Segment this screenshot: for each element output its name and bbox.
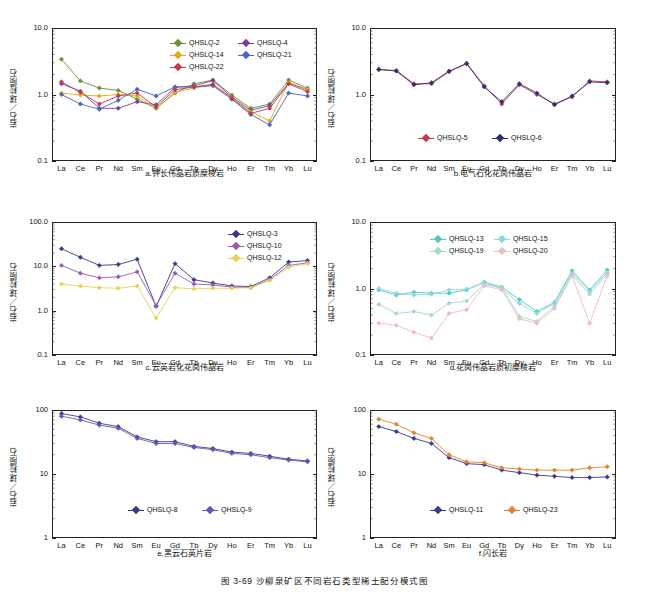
legend-item-a-QHSLQ-22[interactable]: QHSLQ-22 (170, 62, 236, 72)
data-point-a-QHSLQ-21-Tb (192, 85, 196, 89)
y-tickmark-right-e (313, 474, 317, 475)
legend-item-a-QHSLQ-2[interactable]: QHSLQ-2 (170, 38, 236, 48)
y-tick-e: 100 (18, 405, 48, 414)
x-tick-a-Dy: Dy (204, 164, 222, 173)
data-point-c-QHSLQ-3-Lu (305, 258, 309, 262)
legend-label: QHSLQ-9 (221, 505, 252, 515)
x-tick-c-Tm: Tm (261, 358, 279, 367)
data-point-a-QHSLQ-4-Sm (135, 99, 139, 103)
legend-item-d-QHSLQ-20[interactable]: QHSLQ-20 (494, 246, 556, 256)
series-line-c-QHSLQ-12 (61, 264, 307, 318)
legend-item-c-QHSLQ-10[interactable]: QHSLQ-10 (228, 241, 298, 251)
data-point-e-QHSLQ-8-Pr (97, 421, 101, 425)
x-tick-d-La: La (370, 358, 388, 367)
legend-label: QHSLQ-12 (247, 253, 282, 263)
y-tickmark-c (52, 311, 56, 312)
legend-marker-icon (170, 51, 186, 59)
x-tick-b-Ho: Ho (528, 164, 546, 173)
data-point-b-QHSLQ-5-Nd (429, 82, 433, 86)
data-point-f-QHSLQ-11-Tm (570, 475, 574, 479)
data-point-f-QHSLQ-23-Pr (412, 431, 416, 435)
data-point-c-QHSLQ-3-Sm (135, 257, 139, 261)
data-point-d-QHSLQ-15-Ho (535, 311, 539, 315)
legend-item-b-QHSLQ-6[interactable]: QHSLQ-6 (492, 133, 564, 143)
x-tick-d-Lu: Lu (598, 358, 616, 367)
data-point-c-QHSLQ-10-Dy (211, 283, 215, 287)
legend-marker-icon (228, 230, 244, 238)
x-tick-f-Ho: Ho (528, 541, 546, 550)
data-point-a-QHSLQ-22-Gd (173, 88, 177, 92)
chart-panel-c: 岩石／球粒陨石0.11.010.0100.0LaCePrNdSmEuGdTbDy… (0, 0, 649, 603)
legend-item-e-QHSLQ-8[interactable]: QHSLQ-8 (128, 505, 200, 515)
legend-item-c-QHSLQ-12[interactable]: QHSLQ-12 (228, 253, 298, 263)
legend-item-f-QHSLQ-23[interactable]: QHSLQ-23 (504, 505, 576, 515)
series-line-a-QHSLQ-21 (61, 86, 307, 125)
plot-area-a (52, 28, 317, 161)
data-point-d-QHSLQ-15-Sm (447, 288, 451, 292)
x-tick-a-Tb: Tb (185, 164, 203, 173)
data-point-c-QHSLQ-3-Tm (267, 276, 271, 280)
legend-item-b-QHSLQ-5[interactable]: QHSLQ-5 (418, 133, 490, 143)
legend-item-a-QHSLQ-4[interactable]: QHSLQ-4 (238, 38, 304, 48)
data-point-e-QHSLQ-9-Nd (116, 426, 120, 430)
x-tick-d-Yb: Yb (581, 358, 599, 367)
data-point-e-QHSLQ-8-La (59, 411, 63, 415)
legend-item-a-QHSLQ-14[interactable]: QHSLQ-14 (170, 50, 236, 60)
data-point-f-QHSLQ-11-Eu (464, 461, 468, 465)
data-point-a-QHSLQ-2-Lu (305, 86, 309, 90)
y-tick-c: 100.0 (18, 217, 48, 226)
data-point-e-QHSLQ-8-Yb (286, 457, 290, 461)
x-tick-e-Lu: Lu (299, 541, 317, 550)
data-point-c-QHSLQ-12-Er (249, 285, 253, 289)
data-point-c-QHSLQ-3-La (59, 246, 63, 250)
legend-marker-icon (494, 235, 510, 243)
legend-marker-icon (228, 242, 244, 250)
legend-item-a-QHSLQ-21[interactable]: QHSLQ-21 (238, 50, 304, 60)
legend-item-e-QHSLQ-9[interactable]: QHSLQ-9 (202, 505, 274, 515)
legend-item-d-QHSLQ-15[interactable]: QHSLQ-15 (494, 234, 556, 244)
data-point-c-QHSLQ-12-Ce (78, 284, 82, 288)
data-point-c-QHSLQ-10-Nd (116, 275, 120, 279)
data-point-d-QHSLQ-19-Yb (587, 292, 591, 296)
legend-label: QHSLQ-3 (247, 229, 278, 239)
legend-item-d-QHSLQ-13[interactable]: QHSLQ-13 (430, 234, 492, 244)
data-point-a-QHSLQ-21-Gd (173, 85, 177, 89)
x-tick-d-Dy: Dy (510, 358, 528, 367)
x-tick-b-Yb: Yb (581, 164, 599, 173)
legend-marker-icon (504, 506, 520, 514)
x-tick-e-Ho: Ho (223, 541, 241, 550)
legend-item-c-QHSLQ-3[interactable]: QHSLQ-3 (228, 229, 298, 239)
data-point-e-QHSLQ-8-Gd (173, 439, 177, 443)
data-point-a-QHSLQ-4-Ce (78, 89, 82, 93)
legend-a: QHSLQ-2QHSLQ-4QHSLQ-14QHSLQ-21QHSLQ-22 (170, 38, 304, 74)
x-tick-b-La: La (370, 164, 388, 173)
x-tick-d-Eu: Eu (458, 358, 476, 367)
legend-item-f-QHSLQ-11[interactable]: QHSLQ-11 (430, 505, 502, 515)
series-layer-e (0, 0, 649, 603)
data-point-e-QHSLQ-8-Er (249, 451, 253, 455)
y-tick-b: 10.0 (336, 23, 366, 32)
legend-label: QHSLQ-6 (511, 133, 542, 143)
data-point-c-QHSLQ-3-Nd (116, 262, 120, 266)
data-point-a-QHSLQ-21-Er (249, 112, 253, 116)
y-tick-c: 0.1 (18, 350, 48, 359)
data-point-b-QHSLQ-6-Ce (394, 69, 398, 73)
series-layer-b (0, 0, 649, 603)
data-point-a-QHSLQ-4-Er (249, 108, 253, 112)
y-tick-c: 10.0 (18, 261, 48, 270)
legend-item-d-QHSLQ-19[interactable]: QHSLQ-19 (430, 246, 492, 256)
minor-ticks-b (0, 0, 649, 603)
data-point-b-QHSLQ-6-Ho (535, 91, 539, 95)
data-point-a-QHSLQ-4-Ho (230, 95, 234, 99)
legend-marker-icon (238, 39, 254, 47)
series-line-a-QHSLQ-22 (61, 82, 307, 114)
series-line-f-QHSLQ-11 (379, 427, 607, 478)
data-point-d-QHSLQ-20-Dy (517, 317, 521, 321)
data-point-a-QHSLQ-21-Ho (230, 97, 234, 101)
data-point-a-QHSLQ-22-Eu (154, 105, 158, 109)
x-tick-a-Yb: Yb (280, 164, 298, 173)
data-point-f-QHSLQ-23-Tb (500, 466, 504, 470)
data-point-b-QHSLQ-6-Er (552, 103, 556, 107)
data-point-a-QHSLQ-14-Ho (230, 95, 234, 99)
data-point-f-QHSLQ-23-Ho (535, 468, 539, 472)
